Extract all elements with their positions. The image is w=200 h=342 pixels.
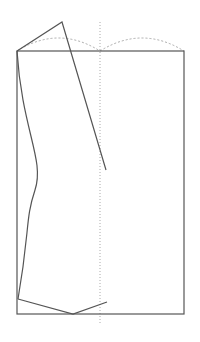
pattern-diagram [0, 0, 200, 342]
diagram-canvas [0, 0, 200, 342]
